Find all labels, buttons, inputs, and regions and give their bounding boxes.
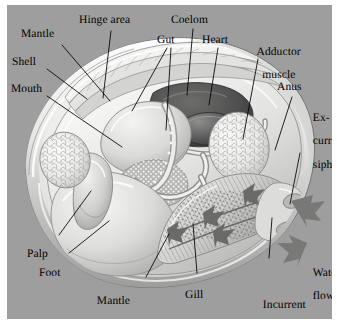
label-mantle: Mantle bbox=[21, 29, 54, 41]
figure-root: Mantle Hinge area Shell Mouth Gut Coelom… bbox=[0, 0, 337, 324]
label-gill: Gill bbox=[185, 290, 203, 302]
label-adductor-muscle-line2: muscle bbox=[262, 69, 295, 81]
label-palp: Palp bbox=[27, 249, 48, 261]
label-gut: Gut bbox=[157, 35, 175, 47]
label-mouth: Mouth bbox=[11, 84, 42, 96]
label-water-flow-line2: flow bbox=[313, 290, 332, 302]
label-adductor-muscle-line1: Adductor bbox=[256, 46, 300, 58]
label-excurrent-siphon: Ex- current siphon bbox=[295, 101, 332, 184]
label-anus: Anus bbox=[277, 82, 302, 94]
label-shell: Shell bbox=[12, 57, 36, 69]
diagram-panel: Mantle Hinge area Shell Mouth Gut Coelom… bbox=[7, 5, 332, 319]
label-mantle-cavity-line1: Mantle bbox=[97, 295, 130, 307]
label-water-flow-line1: Water bbox=[313, 267, 332, 279]
label-incurrent-siphon-line1: Incurrent bbox=[263, 299, 306, 311]
label-excurrent-siphon-line3: siphon bbox=[313, 159, 332, 171]
label-mantle-cavity: Mantle cavity bbox=[79, 284, 137, 319]
label-coelom: Coelom bbox=[171, 15, 208, 27]
label-excurrent-siphon-line2: current bbox=[313, 135, 332, 147]
label-heart: Heart bbox=[202, 35, 228, 47]
label-excurrent-siphon-line1: Ex- bbox=[313, 112, 330, 124]
label-mantle-cavity-line2: cavity bbox=[97, 318, 126, 319]
label-incurrent-siphon: Incurrent siphon bbox=[245, 288, 307, 319]
label-foot: Foot bbox=[39, 268, 61, 280]
label-hinge-area: Hinge area bbox=[79, 15, 130, 27]
